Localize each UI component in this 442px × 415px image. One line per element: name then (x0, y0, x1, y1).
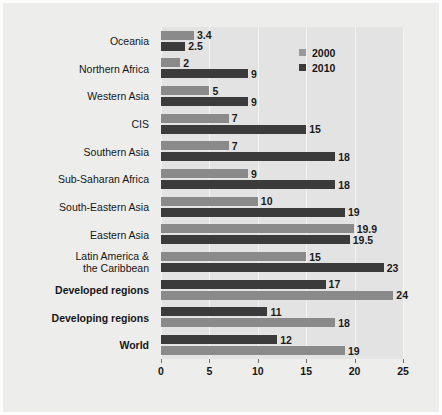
bar-2000[interactable] (161, 252, 306, 261)
bar-row: 7 (161, 114, 403, 123)
bar-value-label: 10 (258, 195, 273, 207)
bar-value-label: 23 (384, 262, 399, 274)
bar-2000[interactable] (161, 58, 180, 67)
bar-row: 23 (161, 263, 403, 272)
bar-2000[interactable] (161, 169, 248, 178)
bar-row: 9 (161, 69, 403, 78)
bar-group: 59 (161, 82, 403, 110)
bar-2000[interactable] (161, 86, 209, 95)
chart-figure: OceaniaNorthern AfricaWestern AsiaCISSou… (0, 0, 442, 415)
bar-row: 19.9 (161, 224, 403, 233)
bar-row: 24 (161, 291, 403, 300)
bar-2010[interactable] (161, 97, 248, 106)
bar-row: 3.4 (161, 31, 403, 40)
bar-2000[interactable] (161, 224, 354, 233)
bar-group: 718 (161, 138, 403, 166)
x-tick-15 (306, 359, 307, 363)
bar-groups: 3.42.52959715718918101919.919.5152317241… (161, 27, 403, 359)
bar-group: 1118 (161, 304, 403, 332)
bar-value-label: 2 (180, 57, 189, 69)
bar-value-label: 19 (345, 345, 360, 357)
bar-row: 18 (161, 180, 403, 189)
bar-row: 2 (161, 58, 403, 67)
bar-row: 17 (161, 280, 403, 289)
bar-2010[interactable] (161, 263, 384, 272)
bar-2000[interactable] (161, 291, 393, 300)
bar-row: 9 (161, 169, 403, 178)
legend-item-2000[interactable]: 2000 (299, 45, 335, 60)
category-label: Oceania (3, 35, 155, 47)
bar-row: 10 (161, 197, 403, 206)
bar-group: 3.42.5 (161, 27, 403, 55)
category-label: Western Asia (3, 90, 155, 102)
bar-group: 1523 (161, 248, 403, 276)
legend-swatch-icon (299, 64, 306, 71)
bar-value-label: 7 (229, 140, 238, 152)
category-label: Southern Asia (3, 146, 155, 158)
category-label: World (3, 339, 155, 351)
bar-row: 15 (161, 125, 403, 134)
bar-row: 15 (161, 252, 403, 261)
legend-item-2010[interactable]: 2010 (299, 60, 335, 75)
bar-2000[interactable] (161, 318, 335, 327)
bar-2010[interactable] (161, 235, 350, 244)
bar-value-label: 15 (306, 251, 321, 263)
x-tick-10 (258, 359, 259, 363)
category-label: South-Eastern Asia (3, 201, 155, 213)
bar-group: 1724 (161, 276, 403, 304)
bar-value-label: 9 (248, 96, 257, 108)
bar-group: 715 (161, 110, 403, 138)
bar-2010[interactable] (161, 280, 326, 289)
gridline-25 (403, 27, 404, 359)
bar-2010[interactable] (161, 125, 306, 134)
legend-label: 2000 (312, 47, 335, 59)
bar-2000[interactable] (161, 141, 229, 150)
bar-2010[interactable] (161, 208, 345, 217)
bar-group: 29 (161, 55, 403, 83)
bar-value-label: 7 (229, 112, 238, 124)
bar-row: 19.5 (161, 235, 403, 244)
bar-group: 1019 (161, 193, 403, 221)
legend-swatch-icon (299, 49, 306, 56)
category-label: Eastern Asia (3, 229, 155, 241)
chart-legend: 20002010 (299, 45, 335, 75)
bar-value-label: 9 (248, 168, 257, 180)
bar-value-label: 11 (267, 306, 281, 318)
bar-2000[interactable] (161, 31, 194, 40)
x-tick-20 (355, 359, 356, 363)
bar-2010[interactable] (161, 180, 335, 189)
bar-value-label: 18 (335, 317, 350, 329)
bar-value-label: 2.5 (185, 40, 203, 52)
bar-2010[interactable] (161, 42, 185, 51)
bar-2000[interactable] (161, 346, 345, 355)
bar-2010[interactable] (161, 69, 248, 78)
bar-2010[interactable] (161, 335, 277, 344)
bar-row: 9 (161, 97, 403, 106)
bar-group: 918 (161, 165, 403, 193)
x-axis: 0510152025 (161, 359, 403, 389)
x-tick-25 (403, 359, 404, 363)
bar-value-label: 19 (345, 206, 360, 218)
bar-row: 19 (161, 346, 403, 355)
bar-row: 18 (161, 152, 403, 161)
x-tick-5 (209, 359, 210, 363)
bar-2010[interactable] (161, 152, 335, 161)
bar-value-label: 19.5 (350, 234, 373, 246)
bar-row: 7 (161, 141, 403, 150)
category-label: Developing regions (3, 312, 155, 324)
bar-row: 11 (161, 307, 403, 316)
category-label: Latin America &the Caribbean (3, 250, 155, 274)
legend-label: 2010 (312, 62, 335, 74)
bar-row: 5 (161, 86, 403, 95)
bar-2010[interactable] (161, 307, 267, 316)
x-tick-label: 20 (349, 365, 361, 377)
bar-2000[interactable] (161, 114, 229, 123)
bar-value-label: 12 (277, 334, 292, 346)
bar-row: 12 (161, 335, 403, 344)
category-axis-labels: OceaniaNorthern AfricaWestern AsiaCISSou… (3, 27, 155, 359)
bar-value-label: 18 (335, 179, 350, 191)
bar-value-label: 18 (335, 151, 350, 163)
category-label: CIS (3, 118, 155, 130)
bar-group: 19.919.5 (161, 221, 403, 249)
bar-2000[interactable] (161, 197, 258, 206)
